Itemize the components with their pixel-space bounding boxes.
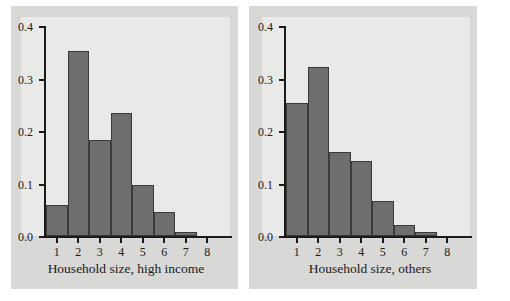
x-axis-tick-label: 3 [333, 246, 347, 258]
x-axis-tick [206, 238, 208, 243]
x-axis-tick-label: 2 [311, 246, 325, 258]
y-axis-tick-label: 0.2 [247, 126, 273, 138]
bar [89, 140, 111, 236]
y-axis-tick [39, 79, 44, 81]
x-axis-tick-label: 8 [440, 246, 454, 258]
y-axis-tick-label: 0.4 [247, 21, 273, 33]
bar [351, 161, 373, 236]
bar [175, 232, 197, 236]
x-axis-tick-label: 4 [354, 246, 368, 258]
x-axis-tick [77, 238, 79, 243]
x-axis-tick-label: 6 [157, 246, 171, 258]
bar [394, 225, 416, 236]
x-axis-tick-label: 2 [71, 246, 85, 258]
figure-histogram-pair: Household size, high income 0.00.10.20.3… [0, 0, 510, 301]
x-axis-tick [425, 238, 427, 243]
x-axis-title: Household size, others [254, 261, 486, 277]
x-axis-tick [446, 238, 448, 243]
y-axis-tick-label: 0.2 [7, 126, 33, 138]
y-axis-tick [279, 131, 284, 133]
y-axis-tick [39, 26, 44, 28]
y-axis-tick-label: 0.3 [247, 74, 273, 86]
bar [154, 212, 176, 236]
x-axis-title: Household size, high income [10, 261, 242, 277]
x-axis-tick-label: 7 [419, 246, 433, 258]
bar [111, 113, 133, 236]
bar [132, 185, 154, 236]
x-axis-tick [296, 238, 298, 243]
y-axis-tick-label: 0.1 [7, 179, 33, 191]
x-axis-tick [360, 238, 362, 243]
x-axis-tick [99, 238, 101, 243]
y-axis-tick-label: 0.3 [7, 74, 33, 86]
y-axis-tick-label: 0.1 [247, 179, 273, 191]
x-axis-tick-label: 5 [376, 246, 390, 258]
bar [308, 67, 330, 236]
x-axis-tick [339, 238, 341, 243]
x-axis-tick-label: 1 [50, 246, 64, 258]
x-axis-tick [120, 238, 122, 243]
y-axis-tick [279, 79, 284, 81]
y-axis-tick [39, 184, 44, 186]
bar [415, 232, 437, 236]
x-axis-line [44, 236, 232, 238]
bar [68, 51, 90, 236]
x-axis-line [284, 236, 472, 238]
x-axis-tick [317, 238, 319, 243]
y-axis-tick [279, 26, 284, 28]
y-axis-tick-label: 0.0 [7, 231, 33, 243]
x-axis-tick [56, 238, 58, 243]
x-axis-tick-label: 3 [93, 246, 107, 258]
chart-household-size-others: Household size, others 0.00.10.20.30.412… [249, 0, 510, 301]
bar [329, 152, 351, 236]
x-axis-tick [142, 238, 144, 243]
x-axis-tick [163, 238, 165, 243]
x-axis-tick [403, 238, 405, 243]
x-axis-tick-label: 5 [136, 246, 150, 258]
y-axis-tick [39, 131, 44, 133]
bar [46, 205, 68, 236]
y-axis-tick-label: 0.0 [247, 231, 273, 243]
x-axis-tick-label: 6 [397, 246, 411, 258]
x-axis-tick [382, 238, 384, 243]
x-axis-tick-label: 8 [200, 246, 214, 258]
y-axis-tick [39, 236, 44, 238]
bar [372, 201, 394, 236]
chart-household-size-high-income: Household size, high income 0.00.10.20.3… [0, 0, 249, 301]
y-axis-tick [279, 184, 284, 186]
x-axis-tick [185, 238, 187, 243]
bar [286, 103, 308, 236]
x-axis-tick-label: 1 [290, 246, 304, 258]
y-axis-tick-label: 0.4 [7, 21, 33, 33]
y-axis-tick [279, 236, 284, 238]
x-axis-tick-label: 7 [179, 246, 193, 258]
x-axis-tick-label: 4 [114, 246, 128, 258]
